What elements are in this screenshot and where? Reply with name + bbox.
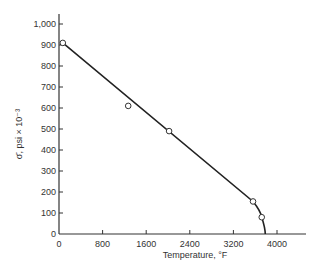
y-tick-label: 100 xyxy=(41,208,56,218)
x-tick-label: 2400 xyxy=(180,239,200,249)
y-tick-label: 300 xyxy=(41,166,56,176)
y-tick-label: 200 xyxy=(41,187,56,197)
y-tick-label: 900 xyxy=(41,40,56,50)
x-tick-label: 4000 xyxy=(267,239,287,249)
fitted-curve xyxy=(63,43,265,234)
y-tick-label: 400 xyxy=(41,145,56,155)
x-tick-label: 3200 xyxy=(223,239,243,249)
data-point xyxy=(125,103,131,109)
y-tick-label: 0 xyxy=(51,229,56,239)
x-tick-label: 0 xyxy=(56,239,61,249)
chart: 01002003004005006007008009001,0000800160… xyxy=(0,0,317,271)
y-tick-label: 1,000 xyxy=(33,19,56,29)
data-point xyxy=(250,199,256,205)
y-tick-label: 500 xyxy=(41,124,56,134)
x-tick-label: 800 xyxy=(95,239,110,249)
data-point xyxy=(259,214,265,220)
y-tick-label: 700 xyxy=(41,82,56,92)
data-point xyxy=(60,40,66,46)
x-axis-label: Temperature, °F xyxy=(163,250,228,260)
data-point xyxy=(166,128,172,134)
y-tick-label: 600 xyxy=(41,103,56,113)
y-axis-label: σ̄, psi × 10⁻³ xyxy=(14,109,24,159)
x-tick-label: 1600 xyxy=(136,239,156,249)
y-tick-label: 800 xyxy=(41,61,56,71)
